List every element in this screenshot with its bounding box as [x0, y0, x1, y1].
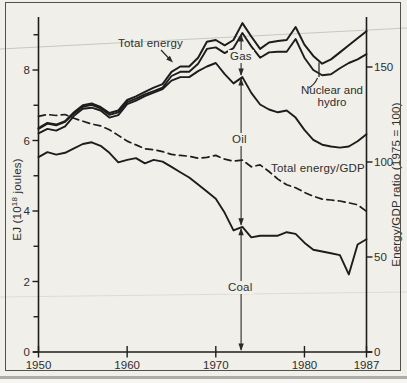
- left-axis-title-post: joules): [11, 158, 23, 197]
- scan-artifact-line-bottom: [0, 292, 407, 297]
- oil-band-arrow: [238, 78, 243, 226]
- x-axis-tick-label: 1970: [203, 359, 229, 371]
- coal-label: Coal: [226, 281, 254, 294]
- left-axis-tick-label: 2: [24, 276, 30, 288]
- left-axis-tick-label: 0: [24, 346, 30, 358]
- right-axis-tick-label: 0: [374, 346, 380, 358]
- x-axis-tick-label: 1950: [26, 359, 52, 371]
- right-axis-tick-label: 150: [374, 61, 393, 73]
- data-series: [39, 23, 367, 274]
- page-margin: [0, 379, 407, 383]
- scanned-energy-chart-figure: 0246805010015019501960197019801987 Total…: [0, 0, 407, 383]
- nuclear-hydro-label-line2: hydro: [318, 96, 347, 108]
- band-annotation-arrows: [238, 34, 243, 351]
- scan-artifact-line-top: [0, 28, 407, 49]
- x-axis-tick-label: 1980: [292, 359, 318, 371]
- left-axis-tick-label: 6: [24, 135, 30, 147]
- left-axis-title: EJ (1018 joules): [8, 134, 25, 264]
- left-axis-title-pre: EJ (10: [11, 206, 23, 240]
- axes: [33, 17, 372, 352]
- x-axis-tick-label: 1960: [114, 359, 140, 371]
- nuclear-hydro-label-line1: Nuclear and: [301, 84, 363, 96]
- right-axis-title: Energy/GDP ratio (1975 = 100): [390, 85, 403, 285]
- total-energy-label: Total energy: [118, 37, 183, 50]
- chart-canvas: 0246805010015019501960197019801987: [0, 0, 407, 383]
- nuclear-hydro-label: Nuclear and hydro: [299, 84, 365, 108]
- x-axis-tick-label: 1987: [354, 359, 380, 371]
- left-axis-tick-label: 8: [24, 64, 30, 76]
- energy-gdp-label: Total energy/GDP: [271, 162, 365, 175]
- right-axis-tick-label: 50: [374, 251, 387, 263]
- gas-curve: [39, 33, 367, 129]
- left-axis-title-sup: 18: [10, 197, 19, 206]
- oil-label: Oil: [230, 133, 249, 146]
- total-energy-pointer-arrow: [161, 50, 173, 63]
- gas-label: Gas: [228, 50, 254, 63]
- left-axis-tick-label: 4: [24, 205, 31, 217]
